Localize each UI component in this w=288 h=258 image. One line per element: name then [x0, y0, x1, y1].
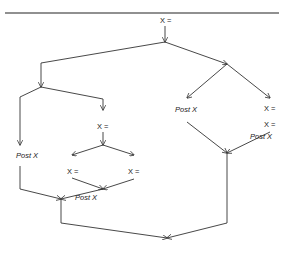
edge-root-to-right	[165, 42, 227, 64]
left-outer-post-label: Post X	[16, 151, 39, 160]
edge-root-to-left	[41, 42, 165, 87]
edge-right-post-to-join	[187, 122, 227, 153]
left-inner-left-assign-label: X =	[67, 167, 79, 176]
edge-mid-to-inner-right	[103, 145, 134, 155]
left-mid-assign-label: X =	[97, 122, 109, 131]
right-post-label: Post X	[175, 105, 198, 114]
edge-right-to-post	[187, 64, 227, 98]
edge-left-to-outer	[20, 87, 41, 145]
edge-left-join-to-final	[61, 199, 167, 238]
edge-inner-right-to-post	[103, 179, 134, 189]
left-inner-right-assign-label: X =	[128, 167, 140, 176]
right-assign-2-label: X =	[264, 120, 276, 129]
edge-inner-left-to-post	[72, 178, 103, 189]
control-flow-diagram: X = Post X X = X = X = Post X Post X X =…	[0, 0, 288, 258]
left-inner-post-label: Post X	[75, 193, 98, 202]
right-assign-1-label: X =	[264, 104, 276, 113]
edge-right-post2-to-join	[227, 132, 270, 153]
root-assign-label: X =	[160, 16, 172, 25]
edge-mid-to-inner-left	[72, 145, 103, 155]
edge-left-to-mid	[41, 87, 103, 110]
edge-outer-post-to-join	[20, 166, 61, 199]
edge-right-join-to-final	[167, 153, 227, 238]
edge-right-to-assign	[227, 64, 270, 98]
